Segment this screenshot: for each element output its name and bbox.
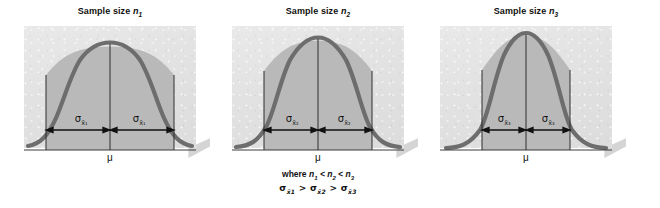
sigma-label-left-subscript: x̄₂ [292,119,299,127]
normal-curve-plot-n2: σ x̄₂ σ x̄₂ [232,26,404,154]
where-keyword: where [282,169,307,179]
sigma-label-right-subscript: x̄₁ [139,119,146,127]
panel-title-subscript: 3 [555,11,559,18]
mean-label-n1: μ [24,152,196,163]
where-note-line-1: where n1 < n2 < n3 [214,168,422,182]
standard-error-inequality: σx̄1 > σx̄2 > σx̄3 [279,183,356,193]
panel-title-subscript: 1 [139,11,143,18]
mean-label-n3: μ [440,152,612,163]
panel-title-n1: Sample size n1 [6,6,214,18]
panel-sample-size-n3: Sample size n3 [422,0,630,208]
panel-title-prefix: Sample size [78,6,131,16]
panel-title-subscript: 2 [347,11,351,18]
sample-size-inequality: n1 < n2 < n3 [309,169,354,179]
mean-label-n2: μ [232,152,404,163]
panel-title-prefix: Sample size [494,6,547,16]
sampling-distribution-figure: Sample size n1 [0,0,660,208]
panel-title-n2: Sample size n2 [214,6,422,18]
where-condition-note: where n1 < n2 < n3 σx̄1 > σx̄2 > σx̄3 [214,168,422,197]
normal-curve-plot-n3: σ x̄₃ σ x̄₃ [440,26,612,154]
panel-title-prefix: Sample size [286,6,339,16]
where-note-line-2: σx̄1 > σx̄2 > σx̄3 [214,182,422,196]
sigma-label-right-subscript: x̄₃ [548,119,555,127]
panel-title-n3: Sample size n3 [422,6,630,18]
normal-curve-plot-n1: σ x̄₁ σ x̄₁ [24,26,196,154]
panel-sample-size-n1: Sample size n1 [6,0,214,208]
sigma-label-right-subscript: x̄₂ [344,119,351,127]
sigma-label-left-subscript: x̄₃ [504,119,511,127]
sigma-label-left-subscript: x̄₁ [81,119,88,127]
